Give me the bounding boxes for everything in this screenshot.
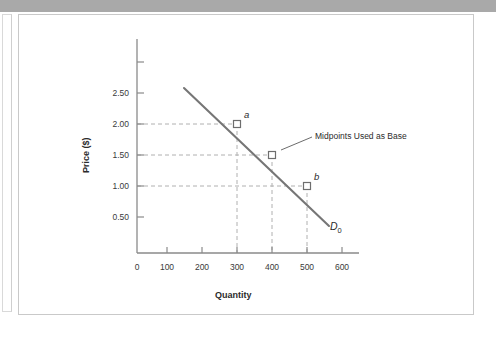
x-tick-label-4: 400 [257,262,287,272]
y-tick-label-3: 2.00 [95,119,129,129]
annotation-leader-line [281,137,312,150]
content-panel: 0.50 1.00 1.50 2.00 2.50 0 100 200 300 4… [18,14,474,315]
y-tick-label-2: 1.50 [95,150,129,160]
outer-page-rail [2,14,12,312]
y-tick-label-4: 2.50 [95,88,129,98]
data-point-midpoint-marker [269,152,276,159]
x-tick-label-0: 0 [122,262,152,272]
demand-curve-label: D0 [330,220,342,235]
x-tick-label-1: 100 [152,262,182,272]
x-tick-marks [167,247,342,253]
top-gray-bar [0,0,496,12]
demand-curve-label-subscript: 0 [338,226,342,235]
demand-curve-label-letter: D [330,220,338,232]
y-tick-label-0: 0.50 [95,212,129,222]
x-tick-label-3: 300 [222,262,252,272]
x-tick-label-2: 200 [187,262,217,272]
data-point-a-marker [234,121,241,128]
y-tick-label-1: 1.00 [95,181,129,191]
y-axis-title: Price ($) [81,137,91,173]
y-tick-marks [137,62,144,217]
data-point-label-b: b [314,171,319,182]
data-point-b-marker [304,183,311,190]
x-axis-title: Quantity [215,290,252,300]
demand-curve-figure: 0.50 1.00 1.50 2.00 2.50 0 100 200 300 4… [19,15,475,316]
x-tick-label-5: 500 [292,262,322,272]
data-point-label-a: a [244,109,249,120]
midpoint-annotation-label: Midpoints Used as Base [315,131,407,141]
x-tick-label-6: 600 [327,262,357,272]
demand-curve-line [184,88,329,226]
